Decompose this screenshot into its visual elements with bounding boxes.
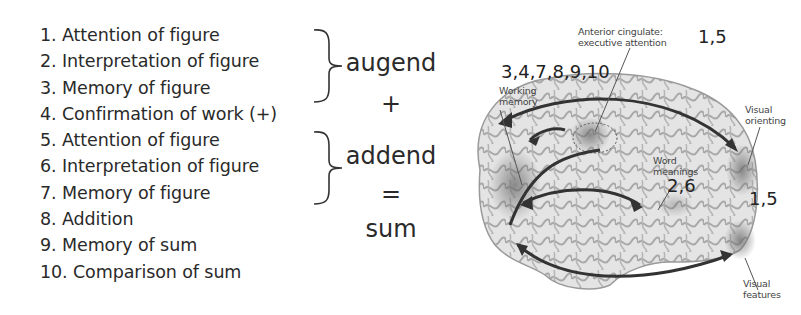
- step-item: 2. Interpretation of figure: [40, 48, 277, 74]
- step-item: 8. Addition: [40, 206, 277, 232]
- process-steps-list: 1. Attention of figure 2. Interpretation…: [40, 22, 277, 285]
- label-visual-orienting: Visual orienting: [745, 104, 786, 126]
- step-item: 6. Interpretation of figure: [40, 153, 277, 179]
- steps-anterior-cingulate: 1,5: [698, 26, 727, 47]
- step-item: 9. Memory of sum: [40, 232, 277, 258]
- steps-working-memory: 3,4,7,8,9,10: [501, 61, 610, 82]
- step-item: 1. Attention of figure: [40, 22, 277, 48]
- plus-sign: +: [336, 90, 446, 118]
- label-word-meanings: Word meanings: [653, 155, 698, 177]
- brain-diagram: Anterior cingulate: executive attention …: [440, 0, 801, 315]
- step-item: 7. Memory of figure: [40, 180, 277, 206]
- step-item: 3. Memory of figure: [40, 75, 277, 101]
- step-item: 10. Comparison of sum: [40, 259, 277, 285]
- steps-visual: 1,5: [749, 188, 778, 209]
- step-item: 5. Attention of figure: [40, 127, 277, 153]
- equals-sign: =: [336, 180, 446, 208]
- label-visual-features: Visual features: [743, 278, 781, 300]
- label-anterior-cingulate: Anterior cingulate: executive attention: [578, 26, 666, 48]
- sum-label: sum: [336, 215, 446, 243]
- steps-word-meanings: 2,6: [667, 175, 696, 196]
- step-item: 4. Confirmation of work (+): [40, 101, 277, 127]
- label-working-memory: Working memory: [499, 85, 538, 107]
- augend-label: augend: [336, 49, 446, 77]
- addend-label: addend: [336, 142, 446, 170]
